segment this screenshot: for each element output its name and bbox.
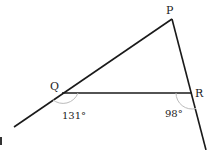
point-label-p: P	[166, 4, 174, 17]
cropped-mark	[0, 137, 2, 145]
line-pq-extended	[14, 19, 172, 127]
point-label-r: R	[195, 87, 204, 100]
point-label-q: Q	[50, 80, 59, 93]
line-pr-extended	[172, 19, 206, 150]
triangle-diagram: P Q R 131° 98°	[0, 0, 210, 150]
angle-label-q: 131°	[62, 110, 86, 121]
angle-label-r: 98°	[165, 108, 183, 119]
